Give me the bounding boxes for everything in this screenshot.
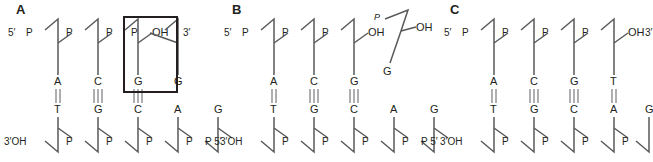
panel-a-bottom-base-2: C xyxy=(134,103,142,115)
panel-a-bottom-phosphate-1: P xyxy=(106,136,113,147)
panel-b-top-base-0: A xyxy=(270,75,278,87)
panel-a: A 5′ P OH 3′ P P P A C G xyxy=(4,2,232,152)
panel-c: C 5′ P P P P OH 3′ A C G T xyxy=(440,2,653,152)
panel-b-top-hydroxyl: OH xyxy=(368,26,385,38)
panel-a-top-phosphate-0: P xyxy=(26,27,33,38)
panel-a-bottom-base-3: A xyxy=(174,103,182,115)
excised-nucleotide: P OH G xyxy=(374,10,433,77)
panel-a-top-phosphate-1: P xyxy=(66,27,73,38)
panel-c-hbonds xyxy=(492,89,616,103)
panel-b-top-phosphate-2: P xyxy=(322,27,329,38)
dna-proofreading-diagram: A 5′ P OH 3′ P P P A C G xyxy=(0,0,653,162)
panel-c-top-base-2: G xyxy=(570,75,579,87)
panel-b-bottom-phosphate-1: P xyxy=(322,136,329,147)
panel-c-bottom-phosphate-3: P xyxy=(622,136,629,147)
panel-c-top-base-3: T xyxy=(610,75,617,87)
panel-a-bottom-phosphate-2: P xyxy=(146,136,153,147)
panel-c-bottom-base-0: T xyxy=(490,103,497,115)
panel-b-bottom-base-0: T xyxy=(270,103,277,115)
panel-b-top-base-1: C xyxy=(310,75,318,87)
panel-a-3prime-label: 3′ xyxy=(183,27,191,38)
panel-a-letter: A xyxy=(16,2,26,17)
panel-c-top-phosphate-2: P xyxy=(542,27,549,38)
panel-c-bottom-phosphate-0: P xyxy=(502,136,509,147)
panel-a-top-base-0: A xyxy=(54,75,62,87)
panel-b-5prime-label: 5′ xyxy=(224,27,232,38)
panel-a-bottom-phosphate-3: P xyxy=(186,136,193,147)
panel-c-3prime-oh-label: 3′OH xyxy=(440,136,462,147)
panel-b-bottom-backbone xyxy=(261,117,448,152)
panel-a-bottom-phosphate-0: P xyxy=(66,136,73,147)
panel-b-bottom-base-1: G xyxy=(310,103,319,115)
excised-base-label: G xyxy=(383,65,392,77)
panel-b-bottom-phosphate-2: P xyxy=(362,136,369,147)
excised-hydroxyl-label: OH xyxy=(416,21,433,33)
panel-b-3prime-oh-label: 3′OH xyxy=(220,136,242,147)
panel-c-top-phosphate-0: P xyxy=(462,27,469,38)
panel-b-hbonds xyxy=(272,89,358,103)
panel-c-3prime-label: 3′ xyxy=(645,27,653,38)
panel-c-bottom-base-2: C xyxy=(570,103,578,115)
panel-a-bottom-base-4: G xyxy=(214,103,223,115)
panel-c-bottom-phosphate-1: P xyxy=(542,136,549,147)
panel-b-bottom-base-2: C xyxy=(350,103,358,115)
figure-canvas: A 5′ P OH 3′ P P P A C G xyxy=(0,0,653,162)
panel-a-top-phosphate-2: P xyxy=(106,27,113,38)
panel-b-top-phosphate-0: P xyxy=(242,27,249,38)
panel-a-bottom-base-0: T xyxy=(54,103,61,115)
panel-a-bottom-base-1: G xyxy=(94,103,103,115)
panel-b-bottom-base-4: G xyxy=(430,103,439,115)
panel-a-top-base-2: G xyxy=(134,75,143,87)
panel-c-top-base-0: A xyxy=(490,75,498,87)
panel-a-5prime-label: 5′ xyxy=(8,27,16,38)
panel-a-top-base-1: C xyxy=(94,75,102,87)
panel-b-bottom-phosphate-0: P xyxy=(282,136,289,147)
panel-b-top-backbone xyxy=(261,19,368,75)
panel-c-bottom-base-3: A xyxy=(610,103,618,115)
panel-a-3prime-oh-label: 3′OH xyxy=(4,136,26,147)
panel-b-top-base-2: G xyxy=(350,75,359,87)
panel-c-letter: C xyxy=(450,2,460,17)
panel-a-bottom-backbone xyxy=(45,117,232,152)
panel-c-top-hydroxyl: OH xyxy=(628,26,645,38)
panel-c-bottom-phosphate-2: P xyxy=(582,136,589,147)
panel-c-top-phosphate-1: P xyxy=(502,27,509,38)
panel-b-bottom-phosphate-3: P xyxy=(402,136,409,147)
panel-b-letter: B xyxy=(232,2,241,17)
panel-c-top-base-1: C xyxy=(530,75,538,87)
panel-c-bottom-base-4: G xyxy=(645,103,653,115)
panel-a-top-phosphate-3: P xyxy=(131,27,138,38)
excised-phosphate-label: P xyxy=(374,12,380,22)
panel-b-bottom-base-3: A xyxy=(390,103,398,115)
panel-c-top-phosphate-3: P xyxy=(582,27,589,38)
panel-b: B 5′ P P P OH A C G xyxy=(220,2,448,152)
panel-b-top-phosphate-1: P xyxy=(282,27,289,38)
panel-c-bottom-base-1: G xyxy=(530,103,539,115)
panel-c-5prime-label: 5′ xyxy=(444,27,452,38)
panel-a-top-base-3: G xyxy=(174,75,183,87)
panel-b-bottom-5prime-label: P 5′ xyxy=(421,136,438,147)
